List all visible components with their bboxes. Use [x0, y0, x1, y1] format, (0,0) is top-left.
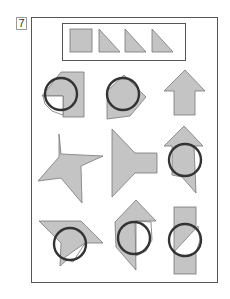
up-arrow-icon — [164, 70, 205, 115]
shape-r2c3 — [164, 126, 203, 193]
shape-r3c3 — [169, 207, 201, 274]
key-triangle-icon — [125, 29, 146, 52]
pinwheel-star-icon — [38, 134, 103, 203]
shape-r1c2 — [107, 75, 146, 119]
shape-r3c1 — [39, 221, 103, 266]
shape-r1c1 — [42, 72, 84, 117]
key-box — [63, 24, 186, 61]
key-triangle-icon — [99, 29, 120, 52]
shape-r2c2 — [112, 129, 157, 197]
key-square-icon — [70, 29, 92, 52]
key-triangle-icon — [152, 29, 173, 52]
shape-r3c2 — [115, 200, 156, 270]
puzzle-figure — [0, 0, 230, 299]
